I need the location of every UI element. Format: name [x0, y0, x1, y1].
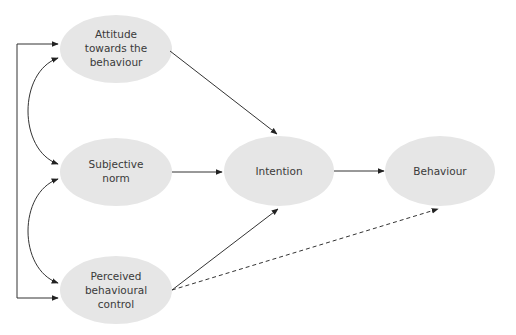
node-perceived-control: Perceived behavioural control — [60, 256, 172, 324]
correlation-attitude-control-bracket — [17, 44, 58, 298]
subjective-norm-label-line1: Subjective — [89, 158, 144, 170]
edge-attitude-to-intention — [170, 51, 277, 134]
perceived-control-label-line1: Perceived — [91, 270, 142, 282]
correlation-norm-control — [28, 179, 58, 283]
node-intention: Intention — [224, 136, 334, 206]
attitude-label-line2: towards the — [85, 42, 147, 54]
node-behaviour: Behaviour — [385, 136, 495, 206]
attitude-label-line3: behaviour — [90, 56, 143, 68]
correlation-attitude-norm — [28, 58, 58, 164]
theory-of-planned-behaviour-diagram: Attitude towards the behaviour Subjectiv… — [0, 0, 516, 335]
attitude-label-line1: Attitude — [95, 28, 137, 40]
subjective-norm-label-line2: norm — [102, 172, 129, 184]
intention-label: Intention — [255, 165, 302, 177]
perceived-control-label-line2: behavioural — [85, 284, 147, 296]
edge-control-to-behaviour-dashed — [172, 209, 438, 290]
perceived-control-label-line3: control — [98, 298, 134, 310]
edge-control-to-intention — [172, 209, 278, 290]
node-attitude: Attitude towards the behaviour — [60, 15, 172, 83]
behaviour-label: Behaviour — [413, 165, 467, 177]
node-subjective-norm: Subjective norm — [60, 138, 172, 206]
